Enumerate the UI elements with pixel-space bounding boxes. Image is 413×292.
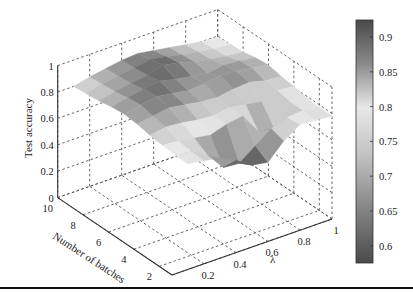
z-tick: 1 xyxy=(48,61,53,72)
colorbar-tick: 0.9 xyxy=(379,32,392,43)
colorbar-tick: 0.85 xyxy=(379,67,397,78)
colorbar-tick: 0.75 xyxy=(379,136,397,147)
y-axis-label: Number of batches xyxy=(51,230,128,286)
y-tick: 4 xyxy=(121,254,127,265)
colorbar-tick: 0.8 xyxy=(379,102,392,113)
colorbar: 0.90.850.80.750.70.650.6 xyxy=(356,20,397,263)
z-tick: 0.6 xyxy=(41,113,54,124)
accuracy-surface xyxy=(74,37,332,167)
y-tick: 8 xyxy=(70,220,75,231)
y-tick: 10 xyxy=(42,203,53,214)
x-tick: 0.4 xyxy=(233,259,247,270)
colorbar-tick: 0.7 xyxy=(379,171,392,182)
z-tick: 0.2 xyxy=(41,166,54,177)
colorbar-tick: 0.6 xyxy=(379,241,392,252)
z-tick: 0.8 xyxy=(41,87,54,98)
x-tick: 1 xyxy=(333,225,338,236)
surface-plot: 00.20.40.60.812468100.20.40.60.81 Test a… xyxy=(0,0,413,292)
y-tick: 2 xyxy=(147,271,152,282)
x-tick: 0.8 xyxy=(297,236,310,247)
z-tick: 0.4 xyxy=(41,140,55,151)
x-axis-label: λ xyxy=(270,253,276,265)
y-tick: 6 xyxy=(96,237,101,248)
colorbar-tick: 0.65 xyxy=(379,206,397,217)
bottom-rule xyxy=(0,287,413,289)
x-tick: 0.2 xyxy=(201,270,214,281)
z-axis-label: Test accuracy xyxy=(22,98,34,158)
